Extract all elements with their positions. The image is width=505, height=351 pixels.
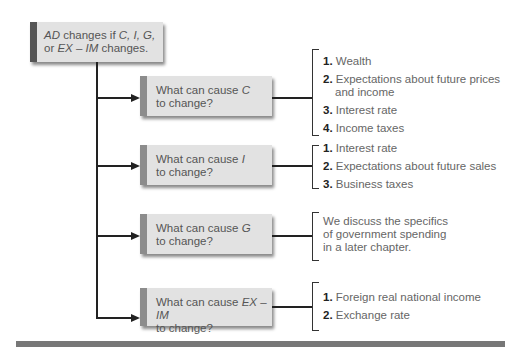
list-item: 4. Income taxes: [323, 122, 503, 135]
list-i: 1. Interest rate 2. Expectations about f…: [323, 142, 503, 196]
item-text: Exchange rate: [336, 309, 410, 321]
question-box-c: What can cause Cto change?: [140, 76, 272, 116]
q-line2: to change?: [156, 235, 213, 247]
question-box-exim: What can cause EX – IMto change?: [140, 288, 272, 326]
right-connector: [272, 97, 312, 99]
q-line2: to change?: [156, 166, 213, 178]
right-connector: [272, 306, 312, 308]
list-item: 3. Business taxes: [323, 178, 503, 191]
list-item: 1. Wealth: [323, 55, 503, 68]
item-text: Interest rate: [336, 104, 397, 116]
question-box-g: What can cause Gto change?: [140, 214, 272, 254]
list-item: 1. Interest rate: [323, 142, 503, 155]
bracket: [312, 282, 319, 331]
connector-c: [96, 97, 132, 99]
box-accent-bar: [30, 22, 37, 62]
item-num: 3.: [323, 104, 333, 116]
box-accent-bar: [140, 76, 147, 116]
list-item: 1. Foreign real national income: [323, 291, 503, 304]
item-text: Expectations about future sales: [336, 160, 496, 172]
root-var-ad: AD: [44, 29, 60, 41]
list-item: 3. Interest rate: [323, 104, 503, 117]
list-item: 2. Expectations about future sales: [323, 160, 503, 173]
arrow-icon: [131, 162, 140, 170]
connector-exim: [96, 317, 132, 319]
bracket: [312, 212, 319, 261]
item-num: 1.: [323, 55, 333, 67]
q-var: G: [242, 222, 251, 234]
root-box: AD changes if C, I, G, or EX – IM change…: [30, 22, 163, 62]
q-var: C: [242, 84, 250, 96]
root-text-3: changes.: [98, 42, 148, 54]
question-text: What can cause EX – IMto change?: [156, 296, 272, 335]
q-prefix: What can cause: [156, 153, 242, 165]
list-item: 2. Exchange rate: [323, 309, 503, 322]
list-c: 1. Wealth 2. Expectations about future p…: [323, 55, 503, 140]
item-num: 1.: [323, 142, 333, 154]
item-num: 3.: [323, 178, 333, 190]
q-var: I: [242, 153, 245, 165]
item-text: Wealth: [336, 55, 372, 67]
q-line2: to change?: [156, 97, 213, 109]
root-text-2: or: [44, 42, 57, 54]
q-prefix: What can cause: [156, 84, 242, 96]
question-text: What can cause Gto change?: [156, 222, 251, 248]
question-text: What can cause Cto change?: [156, 84, 250, 110]
root-text-1: changes if: [60, 29, 119, 41]
item-num: 2.: [323, 160, 333, 172]
bracket: [312, 49, 319, 136]
question-box-i: What can cause Ito change?: [140, 145, 272, 185]
q-line2: to change?: [156, 322, 213, 334]
item-num: 1.: [323, 291, 333, 303]
note-g: We discuss the specifics of government s…: [323, 215, 453, 254]
q-prefix: What can cause: [156, 296, 242, 308]
right-connector: [272, 235, 312, 237]
item-text: Income taxes: [336, 122, 404, 134]
question-text: What can cause Ito change?: [156, 153, 245, 179]
arrow-icon: [131, 314, 140, 322]
item-text: Business taxes: [336, 178, 413, 190]
item-num: 2.: [323, 309, 333, 321]
bottom-rule: [16, 341, 505, 347]
list-item: 2. Expectations about future prices and …: [323, 73, 503, 99]
item-text: Expectations about future prices and inc…: [335, 73, 500, 98]
arrow-icon: [131, 94, 140, 102]
root-text: AD changes if C, I, G, or EX – IM change…: [44, 29, 155, 55]
list-exim: 1. Foreign real national income 2. Excha…: [323, 291, 503, 327]
item-text: Interest rate: [336, 142, 397, 154]
arrow-icon: [131, 232, 140, 240]
q-prefix: What can cause: [156, 222, 242, 234]
item-text: Foreign real national income: [336, 291, 481, 303]
root-var-exim: EX – IM: [57, 42, 98, 54]
box-accent-bar: [140, 288, 147, 326]
trunk-line: [96, 62, 98, 318]
root-vars: C, I, G,: [119, 29, 155, 41]
connector-i: [96, 165, 132, 167]
box-accent-bar: [140, 214, 147, 254]
item-num: 4.: [323, 122, 333, 134]
connector-g: [96, 235, 132, 237]
item-num: 2.: [323, 73, 333, 85]
bracket: [312, 145, 319, 189]
right-connector: [272, 165, 312, 167]
box-accent-bar: [140, 145, 147, 185]
